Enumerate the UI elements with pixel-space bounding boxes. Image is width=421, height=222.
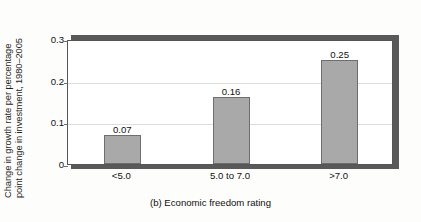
bar: [321, 60, 358, 164]
figure-caption: (b) Economic freedom rating: [0, 197, 421, 208]
y-axis-label: Change in growth rate per percentage poi…: [0, 0, 36, 200]
bar-value-label: 0.25: [310, 49, 370, 60]
y-axis-tick-mark: [64, 166, 68, 167]
y-axis-label-line-2: point change in investment, 1980–2005: [13, 12, 25, 198]
x-axis-category-label: <5.0: [76, 170, 166, 181]
plot-area: 0.070.160.25: [67, 40, 393, 165]
bar-value-label: 0.16: [201, 86, 261, 97]
x-axis-category-label: >7.0: [294, 170, 384, 181]
bar-value-label: 0.07: [92, 124, 152, 135]
y-axis-tick-label: 0: [38, 160, 64, 170]
y-axis-tick-label: 0.2: [38, 77, 64, 87]
bar: [104, 135, 141, 164]
y-axis-tick-label: 0.3: [38, 35, 64, 45]
y-axis-tick-mark: [64, 41, 68, 42]
bar-chart-figure: Change in growth rate per percentage poi…: [0, 0, 421, 222]
bar: [213, 97, 250, 164]
x-axis-category-label: 5.0 to 7.0: [185, 170, 275, 181]
y-axis-tick-label: 0.1: [38, 118, 64, 128]
y-axis-tick-labels: 00.10.20.3: [36, 0, 64, 222]
